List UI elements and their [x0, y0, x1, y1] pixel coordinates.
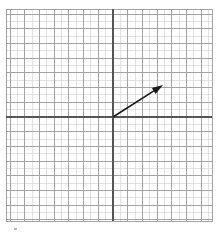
coordinate-plane-graphic: [0, 0, 220, 235]
figure-canvas: [0, 0, 220, 235]
bottom-left-artifact: [14, 228, 17, 230]
